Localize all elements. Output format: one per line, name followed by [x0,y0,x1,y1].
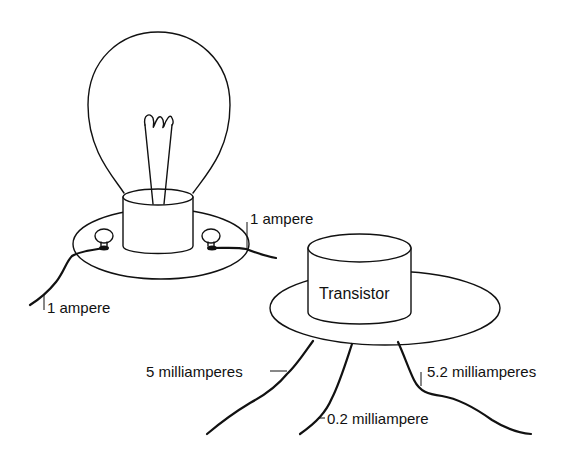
transistor-left-lead-label: 5 milliamperes [146,364,243,379]
transistor-label: Transistor [319,286,390,302]
transistor-middle-lead-label: 0.2 milliampere [327,411,429,426]
transistor-can-top [308,234,411,262]
bulb-right-current-label: 1 ampere [250,211,313,226]
bulb-globe [88,32,230,193]
diagram-canvas [0,0,585,456]
light-bulb [30,32,276,310]
transistor-right-lead-label: 5.2 milliamperes [427,364,536,379]
bulb-neck-top [123,189,193,205]
transistor-lead-left [207,341,313,434]
bulb-left-current-label: 1 ampere [47,300,110,315]
transistor [207,234,531,434]
